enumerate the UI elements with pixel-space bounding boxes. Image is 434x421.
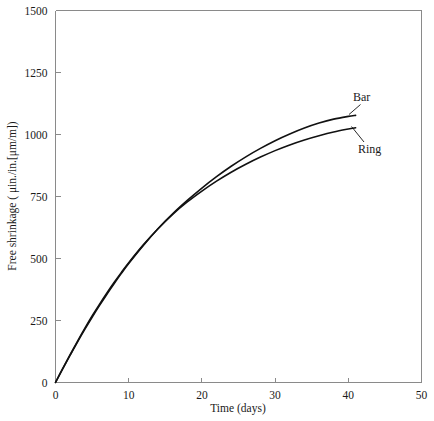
x-tick-label: 0: [53, 389, 59, 401]
data-curve-ring: [56, 128, 356, 383]
y-tick-label: 250: [30, 315, 48, 327]
y-tick-label: 750: [30, 191, 48, 203]
y-tick-label: 1250: [25, 67, 48, 79]
y-axis-title: Free shrinkage ( μin./in.[μm/m]): [6, 121, 19, 271]
ring-leader-line: [352, 127, 365, 143]
data-series-layer: [56, 115, 356, 382]
data-curve-bar: [56, 115, 356, 382]
series-label-ring: Ring: [358, 142, 381, 156]
x-tick-label: 50: [416, 389, 428, 401]
bar-annotation: Bar: [349, 90, 370, 115]
series-label-bar: Bar: [353, 90, 370, 104]
ring-annotation: Ring: [352, 127, 382, 157]
x-tick-label: 30: [269, 389, 281, 401]
x-axis-title: Time (days): [210, 402, 266, 415]
y-tick-label: 1000: [25, 129, 48, 141]
x-axis-ticks: 01020304050: [53, 378, 428, 401]
x-tick-label: 40: [343, 389, 355, 401]
plot-frame: [56, 11, 422, 383]
x-tick-label: 20: [196, 389, 208, 401]
y-tick-label: 1500: [25, 5, 48, 17]
x-tick-label: 10: [123, 389, 135, 401]
y-tick-label: 0: [42, 377, 48, 389]
y-tick-label: 500: [30, 253, 48, 265]
chart-canvas: 0250500750100012501500 01020304050 Bar R…: [0, 0, 434, 421]
shrinkage-chart-figure: 0250500750100012501500 01020304050 Bar R…: [0, 0, 434, 421]
bar-leader-line: [349, 105, 361, 115]
